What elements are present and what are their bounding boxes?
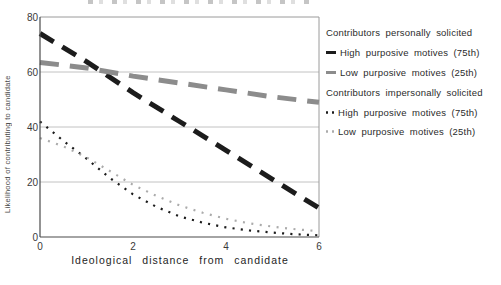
figure-page: { "chart_data": { "type": "line", "title… — [0, 0, 501, 285]
series-line-1 — [40, 62, 319, 102]
legend-item-personal-low: Low purposive motives (25th) — [326, 67, 501, 78]
gridlines-layer — [40, 72, 319, 182]
series-line-2 — [40, 122, 319, 236]
thick-dash-marker-icon — [326, 51, 336, 55]
y-tick-label-20: 20 — [12, 177, 38, 188]
legend-item-label: High purposive motives (75th) — [338, 107, 478, 118]
y-axis-title: Likelihood of contributing to candidate — [3, 55, 12, 233]
legend-group-header-impersonal: Contributors impersonally solicited — [326, 87, 501, 98]
y-tick-label-40: 40 — [12, 122, 38, 133]
legend-item-label: Low purposive motives (25th) — [338, 126, 475, 137]
thick-dash-marker-icon — [326, 71, 336, 75]
legend-item-impersonal-low: Low purposive motives (25th) — [326, 126, 501, 137]
legend-item-personal-high: High purposive motives (75th) — [326, 47, 501, 58]
legend-item-label: Low purposive motives (25th) — [340, 67, 477, 78]
y-tick-label-80: 80 — [12, 12, 38, 23]
x-tick-label-0: 0 — [33, 241, 47, 252]
series-line-3 — [40, 138, 319, 231]
dotted-marker-icon — [326, 111, 334, 113]
legend-item-label: High purposive motives (75th) — [340, 47, 480, 58]
line-chart-plot — [0, 0, 501, 285]
x-tick-label-6: 6 — [312, 241, 326, 252]
y-tick-label-60: 60 — [12, 67, 38, 78]
dotted-marker-icon — [326, 130, 334, 132]
x-axis-title: Ideological distance from candidate — [40, 254, 320, 266]
x-tick-label-2: 2 — [126, 241, 140, 252]
x-tick-label-4: 4 — [219, 241, 233, 252]
legend-item-impersonal-high: High purposive motives (75th) — [326, 107, 501, 118]
data-series-layer — [40, 34, 319, 236]
legend-group-header-personal: Contributors personally solicited — [326, 27, 501, 38]
